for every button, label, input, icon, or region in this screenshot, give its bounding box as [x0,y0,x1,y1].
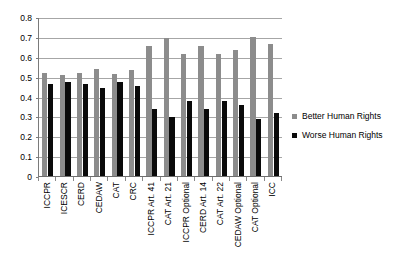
bar-group [56,18,73,177]
bar-worse-human-rights [135,86,140,177]
x-axis-tick-label-text: CERD Art. 14 [198,182,207,233]
x-axis-tick-mark [194,177,195,181]
legend-item: Worse Human Rights [292,127,404,143]
x-axis-tick-label-text: ICCPR [42,182,51,208]
x-axis-tick-mark [125,177,126,181]
x-axis-tick-label-text: CEDAW [94,182,103,213]
bar-better-human-rights [268,44,273,177]
bar-worse-human-rights [100,88,105,177]
x-axis-tick-label-text: CAT Art. 22 [216,182,225,225]
x-axis-tick-mark [107,177,108,181]
x-axis-tick-label: ICCPR Optional [179,182,193,267]
x-axis-tick-label: CERD Art. 14 [196,182,210,267]
y-axis-tick-label: 0.4 [10,93,32,102]
x-axis-tick-mark [212,177,213,181]
legend-swatch-better-icon [292,114,297,119]
legend-item: Better Human Rights [292,108,404,124]
bar-group [178,18,195,177]
bar-group [230,18,247,177]
bar-better-human-rights [94,69,99,177]
y-axis-tick-label: 0.7 [10,34,32,43]
bar-group [161,18,178,177]
x-axis-tick-mark [55,177,56,181]
x-axis-tick-label-text: CEDAW Optional [233,182,242,247]
bar-worse-human-rights [204,109,209,177]
x-axis-tick-label-text: ICC [268,182,277,197]
bar-chart: 0.80.70.60.50.40.30.20.10 ICCPRICESCRCER… [0,0,405,267]
legend-swatch-worse-icon [292,133,297,138]
bar-worse-human-rights [83,84,88,177]
y-axis-tick-label: 0.6 [10,54,32,63]
bar-worse-human-rights [239,105,244,177]
chart-legend: Better Human Rights Worse Human Rights [292,108,404,146]
x-axis-tick-label: CRC [126,182,140,267]
bar-group [39,18,56,177]
x-axis-tick-label-text: ICCPR Art. 41 [146,182,155,235]
x-axis-tick-mark [229,177,230,181]
x-axis-tick-mark [177,177,178,181]
bar-group [108,18,125,177]
bar-worse-human-rights [256,119,261,177]
bar-group [195,18,212,177]
x-axis-tick-label: ICCPR [40,182,54,267]
x-axis-tick-mark [246,177,247,181]
x-axis-tick-label: ICC [265,182,279,267]
bar-better-human-rights [60,75,65,177]
bar-better-human-rights [77,73,82,177]
x-axis-tick-label-text: CAT Optional [250,182,259,232]
bar-better-human-rights [112,74,117,177]
bar-group [265,18,282,177]
bar-worse-human-rights [48,84,53,177]
x-axis-tick-label-text: CAT [112,182,121,198]
bar-better-human-rights [198,46,203,177]
bar-better-human-rights [129,70,134,177]
y-axis-tick-labels: 0.80.70.60.50.40.30.20.10 [10,0,32,267]
x-axis-tick-label-text: CERD [77,182,86,206]
x-axis-tick-mark [90,177,91,181]
x-axis-tick-label: CEDAW Optional [231,182,245,267]
bar-better-human-rights [146,46,151,177]
x-axis-tick-label: ICCPR Art. 41 [144,182,158,267]
x-axis-tick-mark [281,177,282,181]
bar-better-human-rights [233,50,238,177]
x-axis-tick-labels: ICCPRICESCRCERDCEDAWCATCRCICCPR Art. 41C… [38,182,281,267]
x-axis-tick-mark [142,177,143,181]
x-axis-tick-mark [160,177,161,181]
bar-group [143,18,160,177]
bar-better-human-rights [216,54,221,177]
x-axis-tick-label-text: ICESCR [60,182,69,214]
x-axis-tick-label-text: CAT Art. 21 [164,182,173,225]
x-axis-tick-label: CAT [109,182,123,267]
legend-label-worse: Worse Human Rights [302,131,383,140]
bar-better-human-rights [181,54,186,177]
bar-worse-human-rights [65,82,70,177]
plot-area [38,18,282,177]
bar-group [74,18,91,177]
bar-group [91,18,108,177]
legend-label-better: Better Human Rights [302,112,381,121]
x-axis-tick-mark [73,177,74,181]
x-axis-tick-label: ICESCR [57,182,71,267]
y-axis-tick-label: 0.3 [10,113,32,122]
y-axis-tick-label: 0.1 [10,153,32,162]
y-axis-tick-label: 0.2 [10,133,32,142]
x-axis-tick-mark [264,177,265,181]
bar-worse-human-rights [152,109,157,177]
x-axis-tick-marks [38,177,281,181]
bar-better-human-rights [164,38,169,177]
x-axis-tick-label-text: ICCPR Optional [181,182,190,242]
x-axis-tick-label: CAT Art. 21 [161,182,175,267]
bar-better-human-rights [42,73,47,177]
bar-group [126,18,143,177]
x-axis-tick-label: CAT Art. 22 [213,182,227,267]
bars-layer [39,18,282,177]
y-axis-tick-label: 0.8 [10,14,32,23]
bar-worse-human-rights [169,117,174,177]
x-axis-tick-label: CERD [74,182,88,267]
bar-worse-human-rights [222,101,227,177]
x-axis-tick-label-text: CRC [129,182,138,200]
x-axis-tick-mark [38,177,39,181]
bar-group [213,18,230,177]
y-axis-tick-label: 0 [10,173,32,182]
x-axis-tick-label: CAT Optional [248,182,262,267]
